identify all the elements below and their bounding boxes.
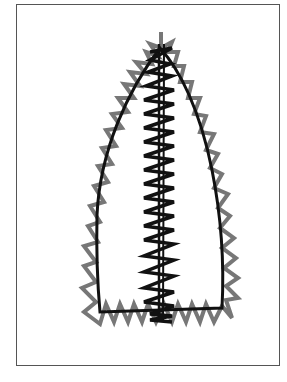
stitch-diagram <box>0 0 287 382</box>
center-zigzag <box>144 48 174 322</box>
